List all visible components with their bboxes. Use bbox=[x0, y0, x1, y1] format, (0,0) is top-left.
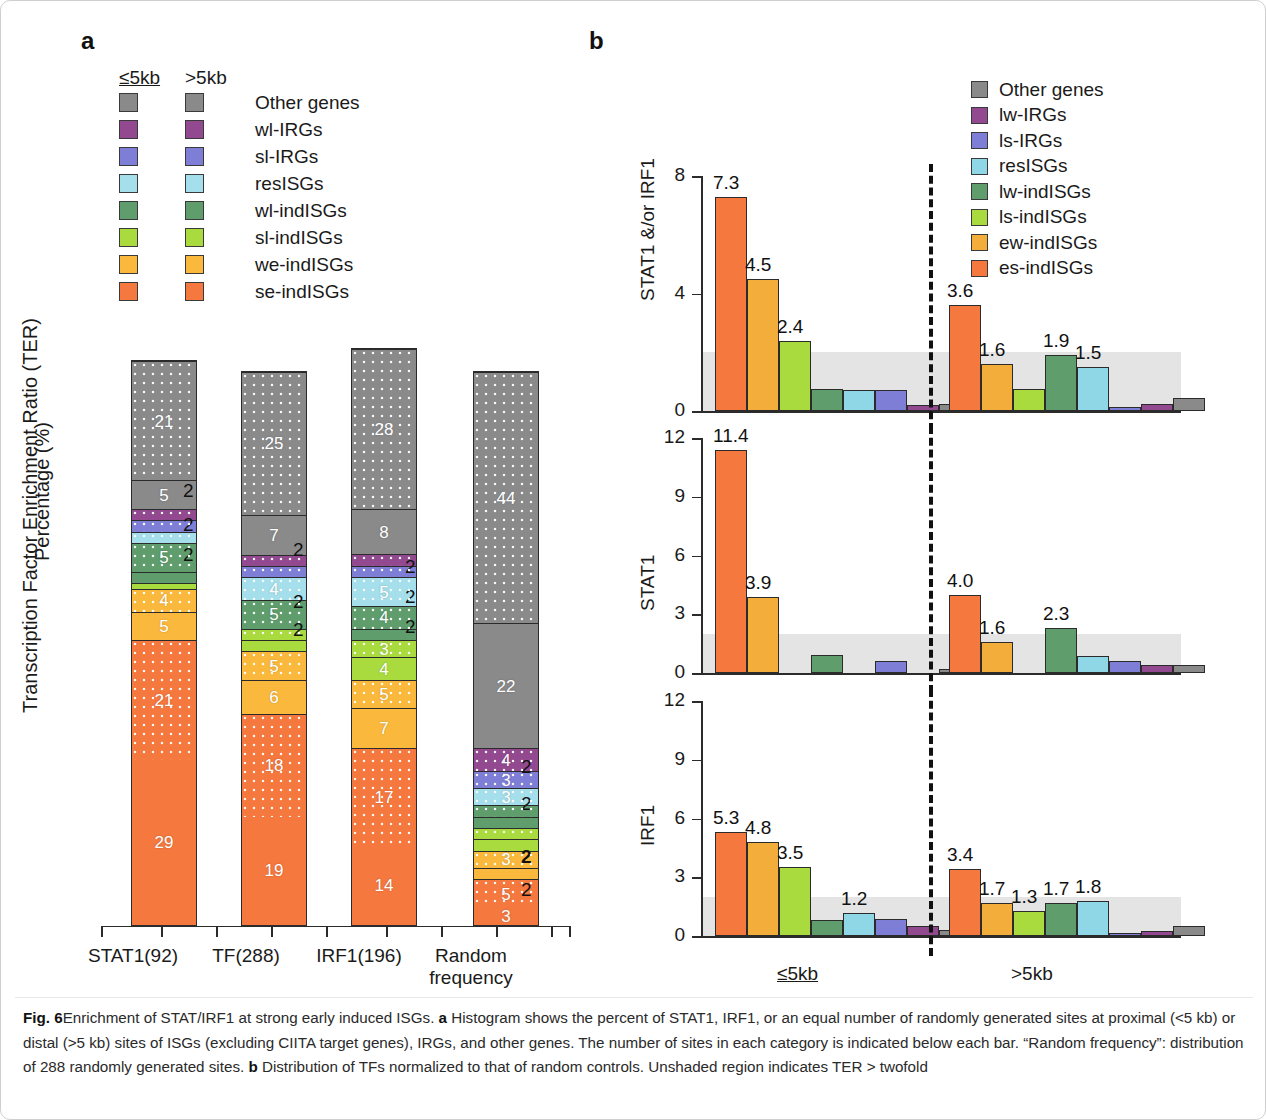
bar[interactable] bbox=[1109, 407, 1141, 411]
bar-value-label: 1.5 bbox=[1075, 342, 1101, 364]
bar[interactable] bbox=[907, 405, 939, 411]
legend-a-label: wl-IRGs bbox=[255, 119, 323, 141]
legend-a-rows: Other geneswl-IRGssl-IRGsresISGswl-indIS… bbox=[119, 89, 360, 305]
stacked-bar[interactable]: 3533342244 bbox=[473, 371, 539, 926]
bar[interactable] bbox=[1141, 404, 1173, 411]
bar-value-label: 1.7 bbox=[979, 878, 1005, 900]
stack-segment: 5 bbox=[242, 651, 306, 680]
bar[interactable] bbox=[715, 450, 747, 673]
bar[interactable] bbox=[1173, 926, 1205, 936]
bar[interactable] bbox=[811, 389, 843, 411]
stack-segment: 4 bbox=[352, 657, 416, 680]
x-tick bbox=[569, 926, 571, 937]
figure-caption: Fig. 6Enrichment of STAT/IRF1 at strong … bbox=[23, 1006, 1245, 1080]
bar[interactable] bbox=[981, 364, 1013, 411]
y-tick-label: 3 bbox=[645, 865, 685, 887]
legend-swatch-distal-cell bbox=[185, 93, 255, 112]
y-axis bbox=[701, 176, 703, 411]
bar[interactable] bbox=[1077, 367, 1109, 411]
legend-a-label: we-indISGs bbox=[255, 254, 353, 276]
bar[interactable] bbox=[1013, 389, 1045, 411]
bar[interactable] bbox=[949, 869, 981, 936]
bar[interactable] bbox=[1173, 665, 1205, 673]
legend-a-label: sl-indISGs bbox=[255, 227, 343, 249]
bar[interactable] bbox=[1045, 628, 1077, 673]
stack-segment bbox=[132, 509, 196, 520]
panel-b-letter: b bbox=[589, 27, 604, 55]
bar[interactable] bbox=[747, 597, 779, 673]
segment-value: 4 bbox=[501, 752, 510, 769]
segment-value: 4 bbox=[379, 661, 388, 678]
legend-swatch-proximal-cell bbox=[119, 255, 185, 274]
y-tick-label: 9 bbox=[645, 485, 685, 507]
bar[interactable] bbox=[981, 903, 1013, 936]
legend-b-label: resISGs bbox=[999, 155, 1068, 177]
x-category-distal: >5kb bbox=[1011, 963, 1053, 985]
bar[interactable] bbox=[747, 842, 779, 936]
bar[interactable] bbox=[1045, 903, 1077, 936]
segment-value: 25 bbox=[265, 435, 284, 452]
segment-value: 7 bbox=[379, 720, 388, 737]
bar[interactable] bbox=[1045, 355, 1077, 411]
bar[interactable] bbox=[715, 197, 747, 411]
y-tick-label: 12 bbox=[645, 689, 685, 711]
bar[interactable] bbox=[1013, 911, 1045, 936]
stack-segment: 25 bbox=[242, 372, 306, 514]
bar[interactable] bbox=[843, 913, 875, 937]
y-tick-label: 0 bbox=[645, 661, 685, 683]
y-tick bbox=[692, 176, 701, 178]
bar[interactable] bbox=[875, 661, 907, 673]
stack-segment: 14 bbox=[352, 845, 416, 925]
panel-a-legend: ≤5kb >5kb Other geneswl-IRGssl-IRGsresIS… bbox=[119, 63, 360, 305]
caption-divider bbox=[15, 997, 1253, 998]
legend-swatch-distal bbox=[185, 282, 204, 301]
bar-value-label: 7.3 bbox=[713, 172, 739, 194]
stack-segment: 5 bbox=[242, 600, 306, 629]
segment-value: 21 bbox=[155, 692, 174, 709]
stacked-bar[interactable]: 19186554725 bbox=[241, 371, 307, 926]
bar[interactable] bbox=[907, 926, 939, 936]
bar[interactable] bbox=[875, 919, 907, 936]
segment-value: 4 bbox=[379, 609, 388, 626]
stack-segment bbox=[352, 566, 416, 577]
x-axis bbox=[701, 411, 1181, 413]
x-tick bbox=[496, 926, 498, 937]
stack-segment: 18 bbox=[242, 714, 306, 817]
stack-segment: 5 bbox=[352, 577, 416, 606]
bar[interactable] bbox=[1141, 931, 1173, 936]
stacked-bar[interactable]: 2921545521 bbox=[131, 360, 197, 926]
bar[interactable] bbox=[1173, 398, 1205, 411]
bar[interactable] bbox=[779, 867, 811, 936]
bar[interactable] bbox=[747, 279, 779, 411]
segment-value: 5 bbox=[379, 686, 388, 703]
bar[interactable] bbox=[715, 832, 747, 936]
legend-b-label: Other genes bbox=[999, 79, 1104, 101]
bar[interactable] bbox=[949, 595, 981, 673]
bar[interactable] bbox=[1077, 656, 1109, 673]
bar[interactable] bbox=[1109, 661, 1141, 673]
bar[interactable] bbox=[949, 305, 981, 411]
y-tick bbox=[692, 556, 701, 558]
bar[interactable] bbox=[811, 655, 843, 673]
stack-segment bbox=[242, 555, 306, 566]
x-tick bbox=[101, 926, 103, 937]
bar[interactable] bbox=[1109, 933, 1141, 936]
segment-value: 4 bbox=[269, 581, 278, 598]
bar[interactable] bbox=[1141, 665, 1173, 673]
x-tick bbox=[216, 926, 218, 937]
bar[interactable] bbox=[1077, 901, 1109, 936]
legend-a-label: se-indISGs bbox=[255, 281, 349, 303]
bar[interactable] bbox=[811, 920, 843, 936]
bar[interactable] bbox=[875, 390, 907, 411]
legend-b-label: lw-IRGs bbox=[999, 104, 1067, 126]
bar[interactable] bbox=[843, 390, 875, 411]
y-tick bbox=[692, 819, 701, 821]
subchart-title: STAT1 &/or IRF1 bbox=[637, 158, 659, 301]
bar[interactable] bbox=[981, 642, 1013, 673]
bar-value-label: 1.6 bbox=[979, 617, 1005, 639]
y-axis bbox=[701, 438, 703, 673]
bar[interactable] bbox=[779, 341, 811, 412]
legend-swatch-proximal-cell bbox=[119, 201, 185, 220]
segment-value: 5 bbox=[501, 886, 510, 903]
x-category-label: IRF1(196) bbox=[299, 945, 419, 967]
